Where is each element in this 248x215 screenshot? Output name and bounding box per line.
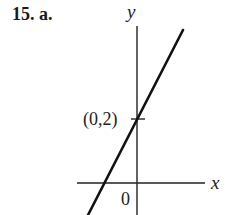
y-axis-label: y xyxy=(125,1,136,22)
graph: y x (0,2) 0 xyxy=(0,0,248,215)
intercept-label: (0,2) xyxy=(83,109,118,130)
origin-label: 0 xyxy=(121,189,130,209)
x-axis-label: x xyxy=(210,172,220,193)
